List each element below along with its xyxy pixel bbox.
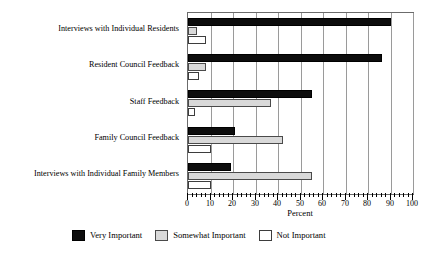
x-tick-minor [223,193,224,197]
x-tick-minor [372,193,373,197]
category-axis-labels: Interviews with Individual ResidentsResi… [0,12,183,193]
x-tick-minor [282,193,283,197]
x-tick-label: 60 [318,200,326,208]
bar [188,163,231,171]
x-tick-minor [250,193,251,197]
category-label: Resident Council Feedback [89,61,179,69]
legend-swatch [259,230,272,241]
bar [188,36,206,44]
legend-label: Somewhat Important [173,231,245,240]
x-tick-minor [349,193,350,197]
plot-area [187,12,414,195]
x-tick-minor [273,193,274,197]
x-tick-minor [403,193,404,197]
gridline [413,13,414,194]
x-tick-minor [363,193,364,197]
x-tick-label: 50 [296,200,304,208]
chart-figure: Interviews with Individual ResidentsResi… [0,0,436,259]
x-tick-label: 10 [206,200,214,208]
category-label: Family Council Feedback [94,134,179,142]
x-tick-minor [214,193,215,197]
x-tick-minor [228,193,229,197]
bar-group [188,85,413,121]
legend-label: Not Important [277,231,326,240]
x-tick-label: 30 [251,200,259,208]
bar [188,127,235,135]
bar-group [188,13,413,49]
x-tick-label: 0 [185,200,189,208]
x-tick-minor [201,193,202,197]
bar [188,63,206,71]
legend-entry: Very Important [72,230,142,241]
x-tick-minor [237,193,238,197]
bar [188,18,391,26]
legend-swatch [72,230,85,241]
x-tick-minor [241,193,242,197]
bar [188,90,312,98]
bar [188,99,271,107]
x-tick-label: 70 [341,200,349,208]
bar [188,145,211,153]
bar [188,72,199,80]
x-tick-minor [268,193,269,197]
legend-label: Very Important [90,231,142,240]
bar-group [188,158,413,194]
bar [188,136,283,144]
x-tick-minor [376,193,377,197]
legend-entry: Somewhat Important [155,230,245,241]
bar [188,108,195,116]
category-label: Interviews with Individual Family Member… [34,170,179,178]
legend-entry: Not Important [259,230,326,241]
x-tick-label: 90 [386,200,394,208]
x-tick-minor [327,193,328,197]
x-tick-minor [295,193,296,197]
x-tick-minor [331,193,332,197]
x-tick-minor [340,193,341,197]
bar [188,172,312,180]
x-axis-title: Percent [187,209,413,218]
bar-group [188,122,413,158]
x-tick-minor [192,193,193,197]
category-label: Interviews with Individual Residents [58,25,179,33]
bar [188,27,197,35]
x-tick-minor [381,193,382,197]
x-tick-minor [291,193,292,197]
bar-group [188,49,413,85]
x-tick-minor [354,193,355,197]
x-tick-minor [399,193,400,197]
x-tick-label: 100 [406,200,418,208]
x-tick-minor [385,193,386,197]
category-label: Staff Feedback [130,98,179,106]
x-tick-label: 40 [273,200,281,208]
x-tick-minor [313,193,314,197]
x-tick-minor [219,193,220,197]
x-tick-minor [358,193,359,197]
x-tick-minor [309,193,310,197]
x-tick-minor [246,193,247,197]
x-tick-minor [336,193,337,197]
x-tick-minor [318,193,319,197]
x-tick-minor [205,193,206,197]
x-tick-label: 20 [228,200,236,208]
chart-legend: Very ImportantSomewhat ImportantNot Impo… [72,230,339,241]
bar [188,54,382,62]
x-tick-label: 80 [363,200,371,208]
x-tick-minor [304,193,305,197]
x-tick-minor [264,193,265,197]
bar [188,181,211,189]
legend-swatch [155,230,168,241]
x-tick-minor [259,193,260,197]
x-tick-minor [196,193,197,197]
x-tick-minor [408,193,409,197]
x-tick-minor [286,193,287,197]
x-tick-minor [394,193,395,197]
